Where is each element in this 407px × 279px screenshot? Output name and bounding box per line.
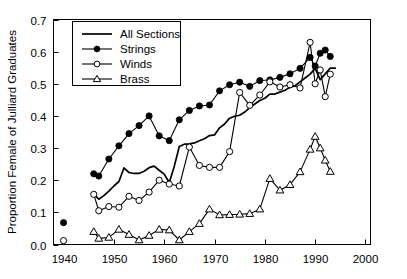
data-point-marker: [106, 203, 112, 209]
data-point-marker: [206, 205, 214, 212]
data-point-marker: [287, 82, 293, 88]
data-point-marker: [90, 228, 98, 235]
data-point-marker: [126, 131, 132, 137]
data-point-marker: [216, 88, 222, 94]
data-point-marker: [94, 61, 100, 67]
data-point-marker: [227, 82, 233, 88]
data-point-marker: [316, 144, 324, 151]
data-point-marker: [277, 74, 283, 80]
data-point-marker: [136, 122, 142, 128]
y-tick-label: 0.5: [31, 79, 47, 91]
data-point-marker: [246, 210, 254, 217]
data-point-marker: [105, 234, 113, 241]
chart-figure: 0.00.10.20.30.40.50.60.7 194019501960197…: [0, 0, 407, 279]
data-point-marker: [146, 113, 152, 119]
data-point-marker: [247, 102, 253, 108]
data-point-marker: [257, 77, 263, 83]
data-point-marker: [125, 231, 133, 238]
data-point-marker: [216, 164, 222, 170]
y-tick-label: 0.0: [31, 240, 47, 252]
data-point-marker: [206, 102, 212, 108]
data-point-marker: [322, 94, 328, 100]
line-chart: 0.00.10.20.30.40.50.60.7 194019501960197…: [0, 0, 407, 279]
y-tick-label: 0.6: [31, 47, 47, 59]
data-point-marker: [297, 85, 303, 91]
data-point-marker: [256, 205, 264, 212]
data-point-marker: [196, 220, 204, 227]
data-point-marker: [106, 156, 112, 162]
data-point-marker: [196, 103, 202, 109]
data-point-marker: [166, 138, 172, 144]
data-point-marker: [296, 168, 304, 175]
data-point-marker: [297, 65, 303, 71]
data-point-marker: [145, 232, 153, 239]
data-point-marker: [116, 204, 122, 210]
data-point-marker: [312, 81, 318, 87]
legend-label: Strings: [120, 43, 156, 55]
data-point-marker: [306, 145, 314, 152]
data-point-marker: [206, 164, 212, 170]
data-point-marker: [96, 173, 102, 179]
data-point-marker: [287, 71, 293, 77]
y-tick-label: 0.2: [31, 175, 47, 187]
data-point-marker: [176, 183, 182, 189]
data-point-marker: [136, 197, 142, 203]
data-point-marker: [317, 67, 323, 73]
data-point-marker: [277, 84, 283, 90]
data-point-marker: [156, 177, 162, 183]
data-point-marker: [135, 236, 143, 243]
data-point-marker: [166, 181, 172, 187]
data-point-marker: [327, 53, 333, 59]
data-point-marker: [247, 83, 253, 89]
data-point-marker: [321, 156, 329, 163]
data-point-marker: [155, 226, 163, 233]
legend-label: Brass: [120, 73, 150, 85]
data-point-marker: [186, 144, 192, 150]
y-axis-title: Proportion Female of Julliard Graduates: [6, 30, 18, 234]
data-point-marker: [326, 168, 334, 175]
data-point-marker: [267, 79, 273, 85]
y-tick-label: 0.4: [31, 111, 48, 123]
x-tick-label: 1950: [102, 253, 128, 265]
data-point-marker: [60, 238, 66, 244]
x-tick-label: 1970: [203, 253, 229, 265]
data-point-marker: [91, 191, 97, 197]
chart-legend: All SectionsStringsWindsBrass: [73, 22, 181, 86]
x-tick-label: 2000: [353, 253, 379, 265]
x-tick-label: 1980: [253, 253, 279, 265]
data-point-marker: [60, 220, 66, 226]
data-point-marker: [327, 71, 333, 77]
x-axis-ticks: 1940195019601970198019902000: [52, 240, 379, 265]
data-point-marker: [156, 133, 162, 139]
data-point-marker: [146, 189, 152, 195]
data-point-marker: [322, 47, 328, 53]
data-point-marker: [237, 79, 243, 85]
x-tick-label: 1940: [52, 253, 78, 265]
data-point-marker: [257, 92, 263, 98]
data-point-marker: [196, 162, 202, 168]
y-tick-label: 0.7: [31, 15, 47, 27]
data-point-marker: [307, 39, 313, 45]
data-point-marker: [116, 143, 122, 149]
data-point-marker: [94, 46, 100, 52]
legend-label: Winds: [120, 58, 152, 70]
data-point-marker: [185, 228, 193, 235]
data-point-marker: [237, 89, 243, 95]
y-axis-ticks: 0.00.10.20.30.40.50.60.7: [31, 15, 59, 252]
x-tick-label: 1990: [303, 253, 329, 265]
y-tick-label: 0.3: [31, 143, 47, 155]
series-brass: [90, 133, 334, 243]
data-point-marker: [311, 133, 319, 140]
x-tick-label: 1960: [152, 253, 178, 265]
legend-label: All Sections: [120, 28, 180, 40]
data-point-marker: [96, 208, 102, 214]
data-point-marker: [227, 149, 233, 155]
y-tick-label: 0.1: [31, 207, 47, 219]
data-point-marker: [126, 193, 132, 199]
data-point-marker: [176, 117, 182, 123]
data-point-marker: [186, 107, 192, 113]
data-point-marker: [266, 175, 274, 182]
series-line: [94, 137, 331, 241]
data-point-marker: [115, 226, 123, 233]
